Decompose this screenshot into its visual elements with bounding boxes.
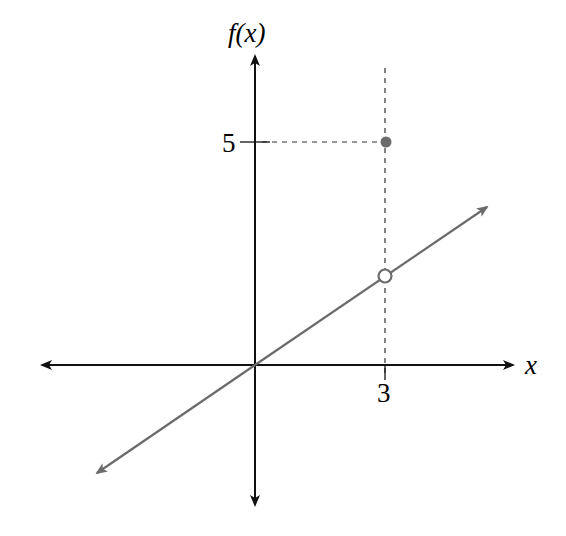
x-axis-label: x	[524, 350, 537, 380]
function-line-upper	[255, 207, 487, 365]
function-graph: f(x) x 5 3	[0, 0, 566, 536]
y-axis-label: f(x)	[228, 18, 265, 48]
x-tick-label-3: 3	[377, 378, 391, 408]
filled-point	[381, 137, 392, 148]
y-tick-label-5: 5	[222, 128, 236, 158]
open-circle-hole	[379, 270, 392, 283]
function-line-lower	[97, 365, 255, 473]
